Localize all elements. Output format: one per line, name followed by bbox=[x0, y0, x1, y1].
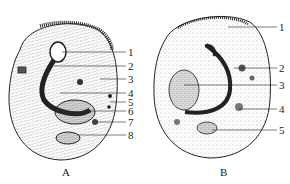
label-a-2: 2 bbox=[128, 61, 134, 72]
label-b-2: 2 bbox=[279, 63, 285, 74]
label-b-3: 3 bbox=[279, 80, 285, 91]
label-b-1: 1 bbox=[279, 22, 285, 33]
label-a-8: 8 bbox=[128, 130, 134, 141]
cell-a bbox=[9, 23, 126, 160]
caption-b: B bbox=[220, 167, 227, 178]
label-a-7: 7 bbox=[128, 117, 134, 128]
cell-b bbox=[154, 16, 277, 158]
label-a-1: 1 bbox=[128, 47, 134, 58]
cell-diagram bbox=[0, 0, 290, 184]
caption-a: A bbox=[62, 167, 70, 178]
label-a-3: 3 bbox=[128, 74, 134, 85]
label-b-5: 5 bbox=[279, 125, 285, 136]
label-b-4: 4 bbox=[279, 104, 285, 115]
